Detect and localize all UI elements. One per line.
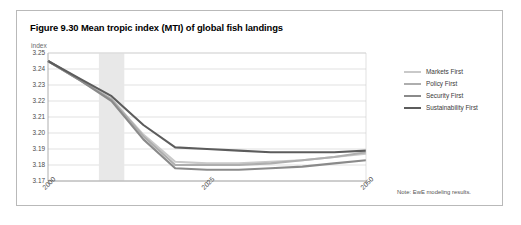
legend-label: Security First — [426, 93, 463, 99]
legend-item[interactable]: Policy First — [404, 78, 500, 90]
legend-label: Policy First — [426, 81, 457, 87]
legend-swatch — [404, 95, 421, 98]
y-tick-label: 3.24 — [23, 65, 45, 72]
figure-container: Figure 9.30 Mean tropic index (MTI) of g… — [16, 10, 503, 206]
legend-label: Markets First — [426, 69, 463, 75]
series-lines — [48, 61, 366, 170]
legend-item[interactable]: Markets First — [404, 66, 500, 78]
series-line — [48, 61, 366, 170]
legend-item[interactable]: Security First — [404, 90, 500, 102]
chart-legend: Markets FirstPolicy FirstSecurity FirstS… — [404, 66, 500, 114]
legend-label: Sustainability First — [426, 105, 478, 111]
y-tick-label: 3.18 — [23, 161, 45, 168]
gridlines — [48, 53, 366, 181]
y-tick-label: 3.21 — [23, 113, 45, 120]
y-tick-label: 3.19 — [23, 145, 45, 152]
y-tick-label: 3.25 — [23, 49, 45, 56]
y-tick-label: 3.23 — [23, 81, 45, 88]
series-line — [48, 61, 366, 152]
y-tick-label: 3.20 — [23, 129, 45, 136]
legend-item[interactable]: Sustainability First — [404, 102, 500, 114]
legend-swatch — [404, 71, 421, 74]
legend-swatch — [404, 107, 421, 110]
legend-swatch — [404, 83, 421, 86]
figure-note: Note: EwE modeling results. — [397, 189, 471, 195]
shaded-band — [99, 53, 124, 181]
y-tick-label: 3.22 — [23, 97, 45, 104]
